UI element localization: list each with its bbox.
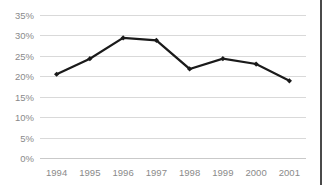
y-axis-tick-label: 15% (15, 92, 35, 103)
figure-right-border (320, 0, 322, 185)
y-axis-tick-label: 10% (15, 112, 35, 123)
x-axis-tick-label: 2000 (246, 167, 267, 178)
y-axis-tick-label: 25% (15, 51, 35, 62)
y-axis-tick-label: 5% (20, 133, 34, 144)
y-axis-tick-labels: 0%5%10%15%20%25%30%35% (15, 10, 35, 164)
x-axis-tick-labels: 19941995199619971998199920002001 (46, 167, 300, 178)
chart-figure: 0%5%10%15%20%25%30%35% 19941995199619971… (0, 0, 328, 185)
x-axis-tick-label: 1994 (46, 167, 67, 178)
x-axis-tick-label: 1998 (179, 167, 200, 178)
y-axis-tick-label: 0% (20, 153, 34, 164)
y-axis-tick-label: 20% (15, 71, 35, 82)
x-axis-tick-label: 2001 (279, 167, 300, 178)
x-axis-tick-label: 1997 (146, 167, 167, 178)
gridlines-group (40, 16, 306, 159)
x-axis-tick-label: 1995 (79, 167, 100, 178)
chart-plot-area: 0%5%10%15%20%25%30%35% 19941995199619971… (0, 0, 316, 185)
x-axis-tick-label: 1999 (212, 167, 233, 178)
y-axis-tick-label: 30% (15, 30, 35, 41)
line-chart-svg: 0%5%10%15%20%25%30%35% 19941995199619971… (0, 0, 316, 185)
x-axis-tick-label: 1996 (113, 167, 134, 178)
y-axis-tick-label: 35% (15, 10, 35, 21)
